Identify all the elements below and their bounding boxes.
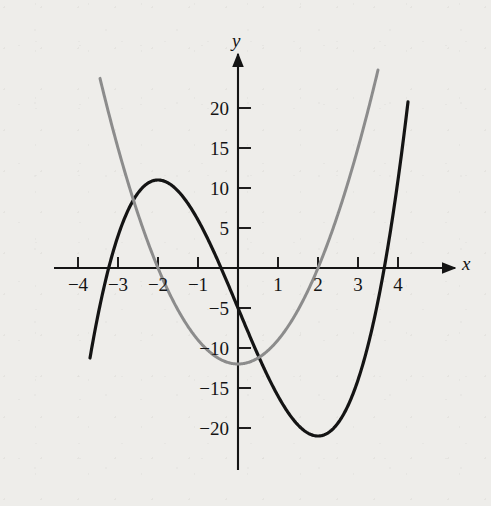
x-tick-label: 3: [353, 274, 363, 295]
graph-figure: −4−3−2−112342015105−5−10−15−20 x y: [0, 0, 491, 506]
x-tick-label: −3: [108, 274, 128, 295]
x-axis-label: x: [461, 253, 471, 274]
y-tick-label: 15: [210, 138, 229, 159]
y-tick-label: −5: [209, 298, 229, 319]
x-tick-label: −4: [68, 274, 89, 295]
axes-group: [54, 54, 455, 470]
y-tick-label: −15: [199, 378, 229, 399]
x-tick-label: −1: [188, 274, 208, 295]
x-tick-label: 2: [313, 274, 323, 295]
y-tick-label: 5: [220, 218, 230, 239]
x-tick-label: 4: [393, 274, 403, 295]
y-axis-label: y: [230, 30, 241, 51]
y-tick-label: 20: [210, 98, 229, 119]
curves-group: [90, 70, 408, 436]
x-tick-label: 1: [273, 274, 283, 295]
plot-canvas: −4−3−2−112342015105−5−10−15−20 x y: [0, 0, 491, 506]
y-tick-label: 10: [210, 178, 229, 199]
y-tick-label: −20: [199, 418, 229, 439]
x-tick-label: −2: [148, 274, 168, 295]
y-tick-label: −10: [199, 338, 229, 359]
